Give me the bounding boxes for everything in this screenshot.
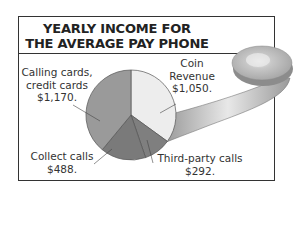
label-cards: Calling cards, credit cards $1,170.	[18, 66, 96, 104]
label-coin-value: $1,050.	[164, 82, 220, 95]
phone-handset-icon	[232, 46, 293, 86]
label-third-line-1: Third-party calls	[152, 152, 248, 165]
label-third-party: Third-party calls $292.	[152, 152, 248, 177]
label-cards-line-2: credit cards	[18, 79, 96, 92]
label-cards-line-1: Calling cards,	[18, 66, 96, 79]
label-cards-value: $1,170.	[18, 91, 96, 104]
pie-chart	[86, 70, 176, 160]
label-coin-line-1: Coin	[164, 57, 220, 70]
label-third-value: $292.	[152, 165, 248, 178]
label-collect-line-1: Collect calls	[26, 150, 98, 163]
label-coin: Coin Revenue $1,050.	[164, 57, 220, 95]
label-collect-value: $488.	[26, 163, 98, 176]
label-coin-line-2: Revenue	[164, 70, 220, 83]
label-collect: Collect calls $488.	[26, 150, 98, 175]
